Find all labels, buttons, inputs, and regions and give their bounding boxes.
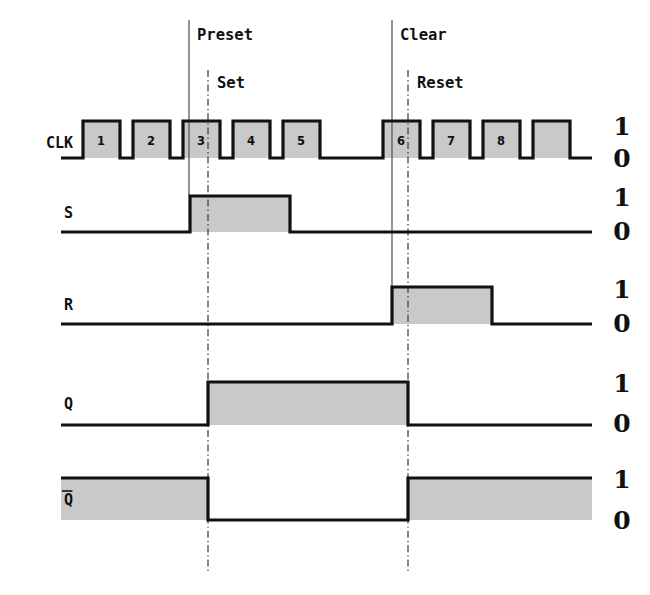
signal-label-clk: CLK [46, 134, 73, 152]
marker-label-reset: Reset [417, 74, 464, 92]
clock-pulse-number-8: 8 [497, 134, 505, 148]
waveform-path-r [61, 287, 592, 324]
waveform-fill-clk-17 [533, 121, 570, 158]
signal-label-qbar: Q [64, 491, 73, 509]
clock-pulse-number-1: 1 [97, 134, 105, 148]
timing-diagram: PresetSetClearResetCLK1012345678S10R10Q1… [0, 0, 650, 595]
level-high-label-r: 1 [613, 275, 630, 304]
level-high-label-clk: 1 [613, 112, 630, 141]
waveform-fill-qbar-0 [61, 478, 208, 520]
signal-label-r: R [64, 296, 74, 314]
waveform-strokes-layer [61, 121, 592, 520]
clock-pulse-number-4: 4 [247, 134, 255, 148]
signal-label-s: S [64, 204, 73, 222]
labels-layer: PresetSetClearResetCLK1012345678S10R10Q1… [46, 26, 631, 535]
marker-label-set: Set [217, 74, 245, 92]
waveform-path-s [61, 196, 592, 232]
clock-pulse-number-2: 2 [147, 134, 155, 148]
level-low-label-q: 0 [613, 409, 630, 438]
clock-pulse-number-5: 5 [297, 134, 305, 148]
event-markers-layer [189, 20, 408, 572]
waveform-fills-layer [61, 121, 592, 520]
level-low-label-qbar: 0 [613, 506, 630, 535]
marker-label-preset: Preset [197, 26, 253, 44]
waveform-fill-r-1 [392, 287, 492, 324]
signal-label-q: Q [64, 395, 73, 413]
waveform-fill-qbar-2 [408, 478, 592, 520]
timing-diagram-canvas: PresetSetClearResetCLK1012345678S10R10Q1… [0, 0, 650, 595]
level-high-label-qbar: 1 [613, 465, 630, 494]
waveform-fill-s-1 [190, 196, 290, 232]
clock-pulse-number-3: 3 [197, 134, 205, 148]
waveform-fill-q-1 [208, 382, 408, 425]
level-low-label-r: 0 [613, 309, 630, 338]
level-low-label-s: 0 [613, 217, 630, 246]
marker-label-clear: Clear [400, 26, 447, 44]
level-high-label-s: 1 [613, 183, 630, 212]
level-high-label-q: 1 [613, 369, 630, 398]
clock-pulse-number-6: 6 [397, 134, 405, 148]
level-low-label-clk: 0 [613, 144, 630, 173]
clock-pulse-number-7: 7 [447, 134, 455, 148]
